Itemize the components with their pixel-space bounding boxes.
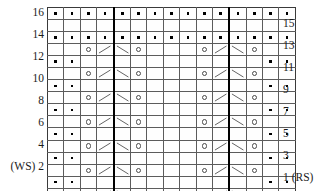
yarn-over-icon [197, 44, 212, 55]
chart-cell [97, 128, 114, 140]
purl-dot-icon [180, 8, 195, 19]
chart-cell [246, 44, 262, 56]
chart-row [48, 32, 296, 44]
chart-row [48, 164, 296, 176]
chart-cell [114, 176, 131, 188]
yarn-over-icon [247, 68, 262, 79]
chart-cell [163, 32, 179, 44]
yarn-over-icon [81, 116, 96, 127]
chart-cell [80, 176, 96, 188]
chart-cell [48, 164, 64, 176]
chart-row [48, 140, 296, 152]
chart-cell [48, 20, 64, 32]
chart-cell [229, 8, 246, 20]
chart-cell [64, 8, 80, 20]
chart-cell [163, 80, 179, 92]
purl-dot-icon [64, 8, 79, 19]
yarn-over-icon [81, 165, 96, 176]
purl-dot-icon [115, 8, 130, 19]
chart-cell [97, 68, 114, 80]
chart-cell [196, 56, 212, 68]
chart-cell [263, 20, 279, 32]
purl-dot-icon [48, 128, 63, 139]
chart-cell [114, 8, 131, 20]
purl-dot-icon [64, 56, 79, 67]
purl-dot-icon [263, 128, 278, 139]
chart-row [48, 80, 296, 92]
chart-cell [180, 188, 196, 191]
chart-cell [263, 68, 279, 80]
chart-cell [80, 56, 96, 68]
chart-cell [180, 104, 196, 116]
chart-cell [229, 44, 246, 56]
chart-cell [180, 68, 196, 80]
yarn-over-icon [81, 68, 96, 79]
row-label-left-14: 14 [33, 29, 45, 40]
chart-cell [147, 20, 163, 32]
chart-cell [212, 8, 229, 20]
chart-cell [147, 68, 163, 80]
chart-row [48, 44, 296, 56]
chart-cell [212, 176, 229, 188]
purl-dot-icon [197, 8, 212, 19]
chart-cell [180, 116, 196, 128]
chart-cell [130, 80, 146, 92]
chart-cell [64, 80, 80, 92]
chart-cell [80, 188, 96, 191]
chart-cell [212, 92, 229, 104]
chart-cell [180, 164, 196, 176]
yarn-over-icon [247, 141, 262, 152]
purl-dot-icon [180, 32, 195, 43]
purl-dot-icon [48, 104, 63, 115]
row-label-left-12: 12 [33, 51, 45, 62]
chart-cell [229, 188, 246, 191]
chart-cell [114, 140, 131, 152]
chart-cell [80, 104, 96, 116]
chart-cell [229, 176, 246, 188]
chart-cell [246, 140, 262, 152]
chart-cell [48, 32, 64, 44]
chart-cell [80, 92, 96, 104]
yarn-over-icon [131, 44, 146, 55]
k2tog-slash-icon [213, 92, 228, 103]
chart-cell [130, 188, 146, 191]
chart-cell [212, 20, 229, 32]
chart-cell [246, 8, 262, 20]
chart-cell [147, 176, 163, 188]
chart-row [48, 128, 296, 140]
row-label-left-16: 16 [33, 7, 45, 18]
chart-cell [196, 188, 212, 191]
chart-cell [196, 80, 212, 92]
purl-dot-icon [81, 8, 96, 19]
purl-dot-icon [97, 8, 112, 19]
chart-cell [130, 140, 146, 152]
purl-dot-icon [213, 8, 228, 19]
chart-cell [130, 92, 146, 104]
yarn-over-icon [197, 92, 212, 103]
chart-cell [180, 56, 196, 68]
chart-cell [229, 92, 246, 104]
chart-cell [163, 176, 179, 188]
yarn-over-icon [131, 68, 146, 79]
purl-dot-icon [64, 80, 79, 91]
chart-row [48, 68, 296, 80]
ssk-backslash-icon [115, 165, 130, 176]
chart-cell [48, 68, 64, 80]
chart-cell [229, 104, 246, 116]
chart-cell [196, 8, 212, 20]
chart-cell [263, 8, 279, 20]
k2tog-slash-icon [213, 44, 228, 55]
chart-cell [48, 176, 64, 188]
chart-cell [147, 8, 163, 20]
chart-cell [80, 8, 96, 20]
purl-dot-icon [247, 8, 262, 19]
chart-cell [80, 140, 96, 152]
k2tog-slash-icon [97, 92, 112, 103]
chart-cell [212, 188, 229, 191]
chart-cell [114, 104, 131, 116]
chart-cell [263, 32, 279, 44]
chart-cell [196, 128, 212, 140]
purl-dot-icon [164, 8, 179, 19]
purl-dot-icon [230, 32, 245, 43]
chart-cell [196, 104, 212, 116]
